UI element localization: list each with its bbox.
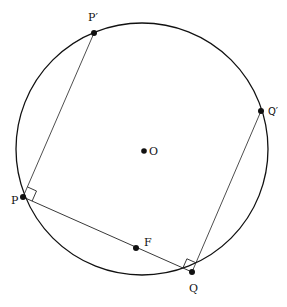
label-o: O [149,145,158,158]
right-angle-mark-p [27,187,36,201]
segment-q-qprime [192,111,261,272]
point-p-prime [91,30,97,36]
segment-p-q [23,197,192,272]
label-p: P [11,194,19,207]
geometry-figure: P′ Q′ O P F Q [0,0,287,307]
label-f: F [144,236,152,249]
diagram-canvas: P′ Q′ O P F Q [0,0,287,307]
point-f [133,245,139,251]
point-q-prime [258,108,264,114]
point-o [141,148,147,154]
label-p-prime: P′ [88,11,98,24]
label-q-prime: Q′ [268,106,279,117]
point-q [189,269,195,275]
circle [16,23,268,275]
label-q: Q [189,282,198,295]
segment-p-pprime [23,33,94,197]
point-p [20,194,26,200]
